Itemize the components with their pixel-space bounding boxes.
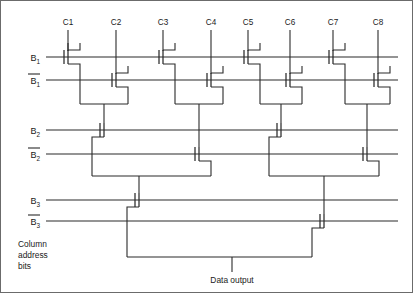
bit-label-b3-bar: B3 (28, 215, 40, 229)
column-label-c7: C7 (328, 18, 339, 27)
caption-line-2: address (18, 250, 48, 260)
bit-label-b1-bar: B1 (28, 74, 40, 88)
transistor-c1-b1 (64, 43, 80, 104)
drain-lead (163, 64, 175, 104)
column-label-c6: C6 (285, 18, 296, 27)
bit-label-b3: B3 (30, 196, 40, 208)
drain-lead (68, 64, 80, 104)
column-label-c4: C4 (206, 18, 217, 27)
column-label-c3: C3 (158, 18, 169, 27)
drain-lead (290, 87, 302, 104)
transistor-c7-b1 (329, 43, 345, 104)
upper-lead (211, 66, 223, 73)
upper-lead (248, 43, 260, 50)
transistor-stage2-b2-right (269, 123, 281, 176)
bit-label-b1-text: B1 (30, 53, 40, 65)
drain-lead (199, 161, 211, 176)
drain-lead (312, 228, 324, 257)
upper-lead (163, 43, 175, 50)
transistor-c6-b1-bar (286, 66, 302, 104)
column-label-c8: C8 (373, 18, 384, 27)
output-label: Data output (210, 275, 254, 285)
transistor-c3-b1 (159, 43, 175, 104)
drain-lead (333, 64, 345, 104)
transistor-c4-b1-bar (207, 66, 223, 104)
bit-label-b1-bar-text: B1 (30, 76, 40, 88)
bit-label-b3-bar-text: B3 (30, 217, 40, 229)
bit-label-b1: B1 (30, 53, 40, 65)
caption-line-3: bits (18, 261, 31, 271)
caption-line-1: Column (18, 239, 47, 249)
drain-lead (92, 137, 104, 176)
figure-border (1, 1, 413, 293)
upper-lead (290, 66, 302, 73)
transistor-c5-b1 (244, 43, 260, 104)
circuit-diagram: C1 C2 C3 C4 C5 C6 C7 C8 B1 B1 B2 B2 B3 (0, 0, 413, 293)
upper-lead (333, 43, 345, 50)
bit-label-b2-text: B2 (30, 126, 40, 138)
bit-label-b3-text: B3 (30, 196, 40, 208)
drain-lead (378, 87, 390, 104)
column-label-c5: C5 (243, 18, 254, 27)
column-label-c1: C1 (63, 18, 74, 27)
drain-lead (211, 87, 223, 104)
caption-column-address-bits: Column address bits (18, 239, 48, 271)
drain-lead (367, 161, 379, 176)
transistor-c2-b1-bar (112, 66, 128, 104)
upper-lead (116, 66, 128, 73)
column-label-group: C1 C2 C3 C4 C5 C6 C7 C8 (63, 18, 384, 27)
transistor-stage2-b2-left (92, 123, 104, 176)
column-label-c2: C2 (111, 18, 122, 27)
bit-label-b2-bar: B2 (28, 148, 40, 162)
drain-lead (116, 87, 128, 104)
output-bus-group (127, 257, 312, 272)
bit-label-group: B1 B1 B2 B2 B3 B3 (28, 53, 40, 229)
upper-lead (68, 43, 80, 50)
transistor-c8-b1-bar (374, 66, 390, 104)
bit-label-b2-bar-text: B2 (30, 150, 40, 162)
transistor-stage2-b2bar-left (195, 147, 211, 176)
transistor-stage2-b2bar-right (363, 147, 379, 176)
upper-lead (378, 66, 390, 73)
drain-lead (248, 64, 260, 104)
drain-lead (127, 207, 139, 257)
bit-label-b2: B2 (30, 126, 40, 138)
stage1-merge-group (80, 104, 390, 147)
transistor-stage3-b3 (127, 193, 139, 257)
drain-lead (269, 137, 281, 176)
